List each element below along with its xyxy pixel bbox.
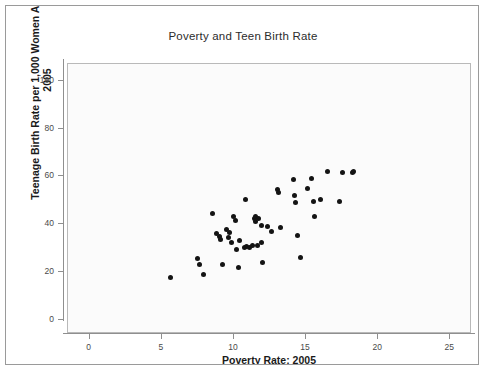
data-point	[229, 240, 234, 245]
x-axis-title: Poverty Rate: 2005	[63, 354, 475, 365]
data-point	[351, 169, 356, 174]
y-tick-mark	[58, 319, 64, 320]
y-tick-label: 80	[20, 123, 54, 133]
data-point	[195, 256, 200, 261]
x-tick-mark	[449, 333, 450, 339]
chart-frame: Poverty and Teen Birth Rate Teenage Birt…	[5, 5, 479, 365]
data-point	[295, 233, 300, 238]
chart-title: Poverty and Teen Birth Rate	[6, 30, 479, 42]
data-point	[293, 200, 298, 205]
x-tick-label: 15	[290, 342, 320, 352]
data-point	[210, 211, 215, 216]
x-tick-mark	[377, 333, 378, 339]
data-point	[312, 214, 317, 219]
data-point	[298, 255, 303, 260]
y-tick-mark	[58, 223, 64, 224]
data-point	[197, 262, 202, 267]
data-point	[318, 197, 323, 202]
data-point	[269, 229, 274, 234]
data-point	[218, 237, 223, 242]
y-axis-line	[63, 59, 64, 321]
data-point	[201, 272, 206, 277]
x-tick-label: 10	[218, 342, 248, 352]
data-point	[236, 265, 241, 270]
y-tick-mark	[58, 80, 64, 81]
data-point	[337, 199, 342, 204]
scatter-series	[68, 64, 470, 332]
data-point	[237, 238, 242, 243]
x-tick-mark	[233, 333, 234, 339]
y-tick-label: 20	[20, 266, 54, 276]
data-point	[233, 218, 238, 223]
data-point	[340, 170, 345, 175]
x-tick-label: 0	[74, 342, 104, 352]
y-tick-label: 100	[20, 75, 54, 85]
data-point	[305, 186, 310, 191]
y-tick-mark	[58, 175, 64, 176]
data-point	[220, 262, 225, 267]
plot-panel	[67, 63, 471, 333]
x-tick-label: 25	[434, 342, 464, 352]
y-axis-title: Teenage Birth Rate per 1,000 Women Age 1…	[27, 5, 55, 215]
data-point	[227, 230, 232, 235]
y-tick-label: 40	[20, 218, 54, 228]
data-point	[276, 190, 281, 195]
data-point	[168, 275, 173, 280]
data-point	[292, 193, 297, 198]
x-tick-label: 5	[146, 342, 176, 352]
y-tick-label: 0	[20, 314, 54, 324]
x-axis-line	[63, 333, 475, 334]
data-point	[311, 199, 316, 204]
x-tick-mark	[305, 333, 306, 339]
x-tick-mark	[161, 333, 162, 339]
data-point	[259, 240, 264, 245]
y-tick-label: 60	[20, 170, 54, 180]
data-point	[325, 169, 330, 174]
x-tick-label: 20	[362, 342, 392, 352]
data-point	[243, 197, 248, 202]
data-point	[256, 216, 261, 221]
data-point	[260, 260, 265, 265]
y-tick-mark	[58, 128, 64, 129]
data-point	[278, 225, 283, 230]
data-point	[309, 176, 314, 181]
data-point	[234, 247, 239, 252]
data-point	[259, 223, 264, 228]
x-tick-mark	[89, 333, 90, 339]
y-tick-mark	[58, 271, 64, 272]
data-point	[291, 177, 296, 182]
